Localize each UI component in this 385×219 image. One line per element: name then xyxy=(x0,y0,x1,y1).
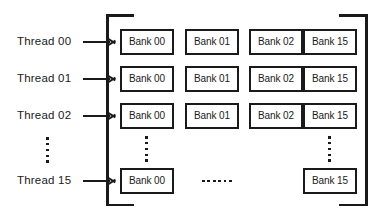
bank-box-label-r1c2: Bank 02 xyxy=(258,74,294,84)
right-bracket-bottom-stub xyxy=(339,204,368,207)
bank-box-r2c3: Bank 15 xyxy=(303,103,357,129)
thread-arrow-head-01 xyxy=(107,73,116,85)
thread-column-ellipsis xyxy=(46,137,49,163)
bank-box-label-r2c1: Bank 01 xyxy=(194,111,230,121)
bank-box-r1c1: Bank 01 xyxy=(185,66,239,92)
bank-box-r3c0: Bank 00 xyxy=(120,168,174,194)
bank-box-label-r3c3: Bank 15 xyxy=(312,176,348,186)
bank-box-label-r0c1: Bank 01 xyxy=(194,37,230,47)
thread-arrow-line-02 xyxy=(83,115,110,117)
thread-label-00: Thread 00 xyxy=(17,36,71,48)
bank-box-r0c3: Bank 15 xyxy=(303,29,357,55)
bank-box-label-r0c3: Bank 15 xyxy=(312,37,348,47)
bank-box-r3c3: Bank 15 xyxy=(303,168,357,194)
left-bracket-top-stub xyxy=(106,14,134,17)
right-bracket-spine xyxy=(365,14,368,206)
bank-box-label-r2c2: Bank 02 xyxy=(258,111,294,121)
bank-box-r2c0: Bank 00 xyxy=(120,103,174,129)
thread-arrow-head-15 xyxy=(107,175,116,187)
bank-column-0-ellipsis xyxy=(145,136,148,162)
bank-box-r1c2: Bank 02 xyxy=(249,66,303,92)
bank-box-r0c0: Bank 00 xyxy=(120,29,174,55)
bank-box-r0c2: Bank 02 xyxy=(249,29,303,55)
right-bracket-top-stub xyxy=(339,14,368,17)
thread-arrow-head-00 xyxy=(107,36,116,48)
bank-box-r0c1: Bank 01 xyxy=(185,29,239,55)
thread-label-02: Thread 02 xyxy=(17,110,71,122)
bank-box-label-r0c2: Bank 02 xyxy=(258,37,294,47)
bank-box-label-r1c1: Bank 01 xyxy=(194,74,230,84)
bank-box-r2c2: Bank 02 xyxy=(249,103,303,129)
thread-label-01: Thread 01 xyxy=(17,73,71,85)
row-ellipsis-3 xyxy=(202,180,232,183)
bank-box-label-r2c3: Bank 15 xyxy=(312,111,348,121)
thread-arrow-head-02 xyxy=(107,110,116,122)
bank-box-r1c3: Bank 15 xyxy=(303,66,357,92)
bank-box-label-r2c0: Bank 00 xyxy=(129,111,165,121)
thread-arrow-line-00 xyxy=(83,41,110,43)
bank-column-15-ellipsis xyxy=(328,136,331,162)
thread-label-15: Thread 15 xyxy=(17,175,71,187)
thread-arrow-line-15 xyxy=(83,180,110,182)
bank-box-label-r3c0: Bank 00 xyxy=(129,176,165,186)
bank-box-r1c0: Bank 00 xyxy=(120,66,174,92)
bank-box-label-r1c3: Bank 15 xyxy=(312,74,348,84)
bank-box-label-r1c0: Bank 00 xyxy=(129,74,165,84)
thread-bank-diagram: Thread 00 Bank 00 Bank 01 Bank 02 Bank 1… xyxy=(0,0,385,219)
bank-box-r2c1: Bank 01 xyxy=(185,103,239,129)
bank-box-label-r0c0: Bank 00 xyxy=(129,37,165,47)
thread-arrow-line-01 xyxy=(83,78,110,80)
left-bracket-bottom-stub xyxy=(106,204,134,207)
